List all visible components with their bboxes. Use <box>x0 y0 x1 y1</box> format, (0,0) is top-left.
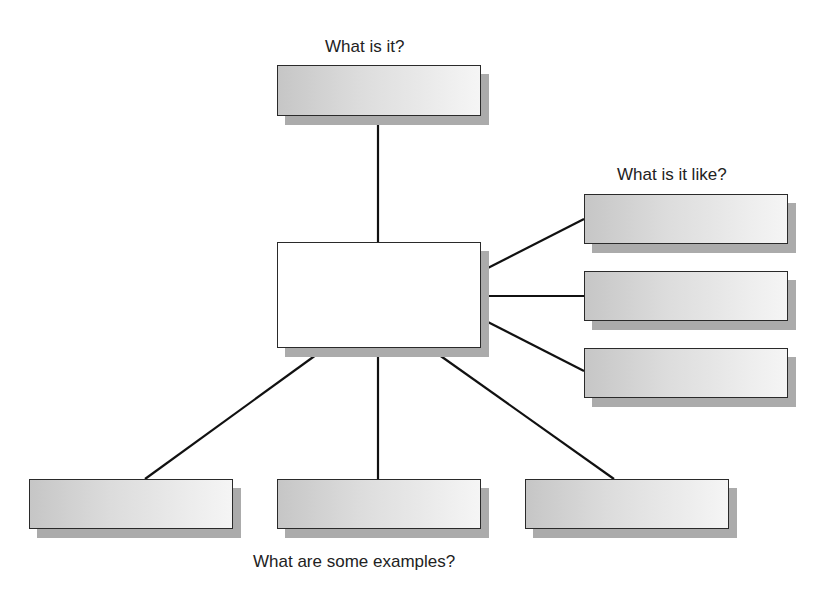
label-what-is-it: What is it? <box>325 37 404 57</box>
connector-bottom-left <box>145 347 327 479</box>
example-box-2 <box>277 479 481 529</box>
example-box-3 <box>525 479 729 529</box>
property-box-1 <box>584 194 788 244</box>
connector-right-3 <box>480 318 584 371</box>
property-box-3 <box>584 348 788 398</box>
example-box-1 <box>29 479 233 529</box>
connector-right-1 <box>480 219 584 272</box>
category-box <box>277 65 481 116</box>
label-what-is-it-like: What is it like? <box>617 165 727 185</box>
property-box-2 <box>584 271 788 321</box>
concept-center-box <box>277 242 481 348</box>
label-what-are-some-examples: What are some examples? <box>253 552 455 572</box>
